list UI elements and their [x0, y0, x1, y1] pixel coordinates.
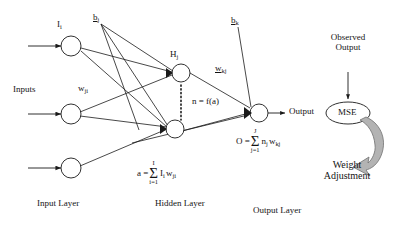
- hidden-node-top: [172, 64, 190, 82]
- bias-j-connections: [101, 24, 173, 130]
- output-sum-formula: O = J Σ j=1 nj wkj: [236, 128, 280, 154]
- output-node: [250, 104, 268, 122]
- activation-sum-lhs: a =: [137, 168, 148, 178]
- input-node-3: [61, 158, 81, 178]
- weight-adjustment-label: Weight Adjustment: [305, 160, 389, 182]
- output-sum-lhs: O =: [236, 136, 250, 146]
- mse-label: MSE: [338, 108, 357, 118]
- input-layer-nodes: [61, 36, 81, 178]
- activation-sum-formula: a = I Σ i=1 Ii wji: [137, 160, 176, 186]
- bias-k-connection: [238, 27, 251, 107]
- weight-adjustment-line2: Adjustment: [305, 171, 389, 182]
- output-term-2: wkj: [269, 136, 281, 147]
- bias-k-label: bk: [231, 16, 239, 26]
- output-layer-node: [244, 104, 285, 122]
- hidden-symbol-label: Hj: [170, 50, 178, 60]
- activation-sigma-bottom: i=1: [149, 179, 158, 186]
- activation-term-1: Ii: [160, 168, 165, 179]
- output-sigma-bottom: j=1: [251, 147, 260, 154]
- activation-function-label: n = f(a): [192, 97, 219, 107]
- input-node-1: [61, 36, 81, 56]
- hidden-node-bottom: [166, 120, 184, 138]
- inputs-label: Inputs: [13, 85, 36, 95]
- observed-output-label: Observed Output: [322, 33, 374, 52]
- input-feed-arrows: [28, 46, 61, 168]
- bias-j-label: bj: [93, 13, 99, 23]
- input-to-hidden-connections: [80, 48, 172, 166]
- input-layer-caption: Input Layer: [37, 199, 79, 209]
- output-sigma: J Σ j=1: [251, 128, 260, 154]
- diagram-canvas: Ii Inputs wji bj Hj n = f(a) wkj bk Outp…: [0, 0, 400, 227]
- activation-sigma: I Σ i=1: [149, 160, 158, 186]
- input-node-2: [61, 104, 81, 124]
- hidden-layer-caption: Hidden Layer: [155, 199, 205, 209]
- output-label: Output: [289, 107, 314, 117]
- activation-term-2: wji: [166, 168, 176, 179]
- output-term-1: nj: [262, 136, 268, 147]
- hidden-to-output-connections: [132, 73, 250, 143]
- input-symbol-label: Ii: [57, 20, 62, 30]
- output-layer-caption: Output Layer: [253, 206, 301, 216]
- weight-ji-label: wji: [78, 84, 88, 94]
- weight-kj-label: wkj: [215, 64, 227, 74]
- observed-output-line2: Output: [322, 43, 374, 53]
